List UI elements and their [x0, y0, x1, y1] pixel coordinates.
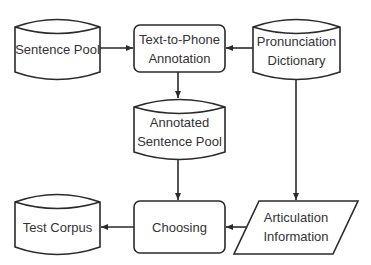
articulation-information-label: Articulation Information [250, 203, 342, 251]
choosing-label: Choosing [134, 201, 225, 253]
text-to-phone-line2: Annotation [148, 49, 210, 68]
annotated-line2: Sentence Pool [137, 132, 222, 151]
sentence-pool-label: Sentence Pool [15, 29, 100, 69]
test-corpus-label: Test Corpus [15, 205, 100, 249]
articulation-line2: Information [263, 227, 328, 246]
sentence-pool-text: Sentence Pool [15, 40, 100, 59]
pronunciation-line2: Dictionary [268, 51, 326, 70]
text-to-phone-label: Text-to-Phone Annotation [134, 25, 225, 72]
test-corpus-text: Test Corpus [23, 218, 92, 237]
articulation-line1: Articulation [264, 208, 328, 227]
text-to-phone-line1: Text-to-Phone [139, 30, 220, 49]
annotated-sentence-pool-label: Annotated Sentence Pool [134, 110, 225, 154]
pronunciation-dictionary-label: Pronunciation Dictionary [253, 29, 340, 73]
choosing-text: Choosing [152, 218, 207, 237]
annotated-line1: Annotated [150, 113, 209, 132]
pronunciation-line1: Pronunciation [257, 32, 337, 51]
